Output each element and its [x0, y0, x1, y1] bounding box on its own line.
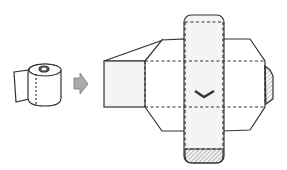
box-net: [104, 15, 273, 163]
fold-diagram: [0, 0, 287, 170]
toilet-roll-icon: [14, 64, 61, 106]
arrow-right-icon: [74, 73, 88, 94]
